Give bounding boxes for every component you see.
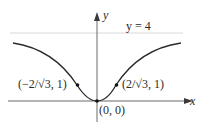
origin-label: (0, 0) bbox=[99, 103, 125, 117]
point-label-left: (−2/√3, 1) bbox=[18, 77, 67, 91]
x-axis-label: x bbox=[189, 94, 196, 108]
y-axis-label: y bbox=[102, 8, 109, 22]
inflection-point-right bbox=[115, 83, 119, 87]
function-graph: y x y = 4 (−2/√3, 1) (2/√3, 1) (0, 0) bbox=[0, 0, 207, 127]
y-axis-arrow-icon bbox=[94, 12, 100, 21]
point-label-right: (2/√3, 1) bbox=[122, 77, 164, 91]
asymptote-label: y = 4 bbox=[126, 19, 151, 33]
inflection-point-left bbox=[76, 83, 80, 87]
